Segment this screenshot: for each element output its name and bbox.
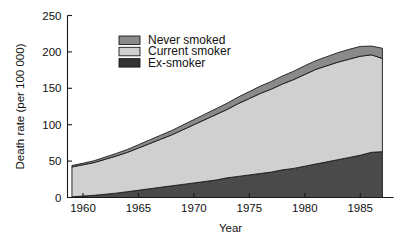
- y-tick-label: 200: [42, 46, 61, 58]
- y-tick-label: 250: [42, 10, 61, 22]
- x-tick-label: 1985: [347, 202, 373, 214]
- x-axis-title: Year: [219, 222, 242, 234]
- legend-swatch-ex-smoker: [119, 59, 140, 68]
- legend-label-ex-smoker: Ex-smoker: [148, 56, 205, 70]
- y-tick-label: 150: [42, 82, 61, 94]
- y-tick-label: 50: [49, 155, 62, 167]
- x-tick-label: 1975: [237, 202, 263, 214]
- death-rate-area-chart: 050100150200250 196019651970197519801985…: [0, 0, 413, 242]
- chart-figure: 050100150200250 196019651970197519801985…: [0, 0, 413, 242]
- y-axis-title: Death rate (per 100 000): [14, 43, 26, 169]
- x-tick-label: 1980: [292, 202, 318, 214]
- legend-swatch-never-smoked: [119, 36, 140, 45]
- y-tick-label: 0: [55, 192, 61, 204]
- x-tick-label: 1960: [70, 202, 96, 214]
- x-tick-label: 1965: [126, 202, 152, 214]
- y-tick-label: 100: [42, 119, 61, 131]
- legend-swatch-current-smoker: [119, 47, 140, 56]
- x-tick-label: 1970: [181, 202, 207, 214]
